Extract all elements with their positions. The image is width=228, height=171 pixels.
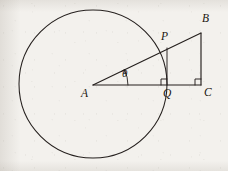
label-point-b: B xyxy=(202,13,209,25)
label-point-q: Q xyxy=(163,88,172,100)
figure-canvas xyxy=(0,0,228,171)
circle-centered-at-a xyxy=(19,10,167,158)
label-point-a: A xyxy=(81,88,88,100)
label-point-p: P xyxy=(161,31,168,43)
geometry-figure: A B C P Q θ xyxy=(0,0,228,171)
label-point-c: C xyxy=(204,87,212,99)
label-angle-theta: θ xyxy=(122,68,127,79)
right-angle-mark-q xyxy=(161,79,167,85)
right-angle-mark-c xyxy=(195,79,201,85)
segment-ab xyxy=(93,33,201,85)
